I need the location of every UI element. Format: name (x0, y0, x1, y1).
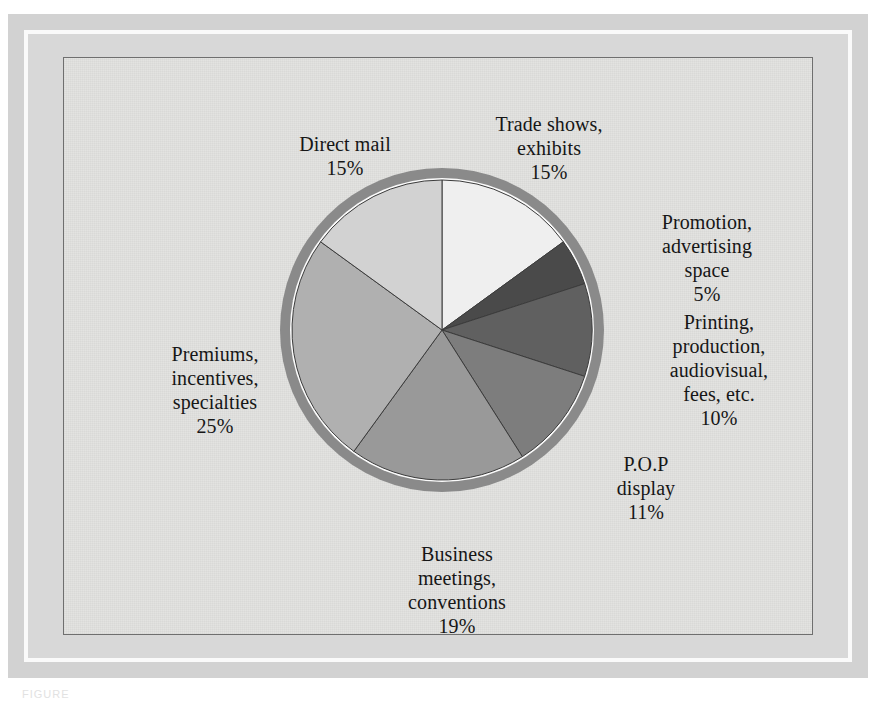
slice-label-premiums-percent: 25% (122, 414, 308, 438)
slice-label-trade-shows-percent: 15% (456, 160, 642, 184)
slice-label-printing-percent: 10% (626, 406, 812, 430)
slice-label-pop-display-percent: 11% (576, 500, 716, 524)
pie-chart-svg (272, 160, 612, 500)
slice-label-pop-display: P.O.P display 11% (576, 428, 716, 548)
slice-label-trade-shows-text: Trade shows, exhibits (495, 113, 602, 159)
slice-label-pop-display-text: P.O.P display (617, 453, 675, 499)
slice-label-premiums: Premiums, incentives, specialties 25% (122, 318, 308, 462)
slice-label-premiums-text: Premiums, incentives, specialties (171, 343, 258, 413)
pie-slice-group (292, 180, 592, 480)
slice-label-business-meetings-text: Business meetings, conventions (408, 543, 506, 613)
slice-label-direct-mail-text: Direct mail (299, 133, 391, 155)
figure-caption: FIGURE (22, 688, 70, 700)
slice-label-promotion-text: Promotion, advertising space (662, 211, 752, 281)
slice-label-direct-mail-percent: 15% (252, 156, 438, 180)
figure-root: Trade shows, exhibits 15% Promotion, adv… (0, 0, 884, 706)
slice-label-printing-text: Printing, production, audiovisual, fees,… (670, 311, 768, 405)
pie-chart (272, 160, 612, 500)
slice-label-business-meetings-percent: 19% (352, 614, 562, 638)
slice-label-direct-mail: Direct mail 15% (252, 108, 438, 204)
slice-label-business-meetings: Business meetings, conventions 19% (352, 518, 562, 662)
